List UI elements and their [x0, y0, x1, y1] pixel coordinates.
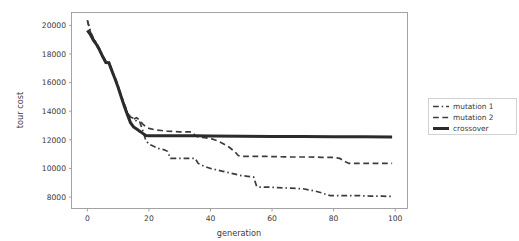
y-tick-label: 12000 — [42, 136, 66, 145]
x-tick-label: 60 — [267, 214, 277, 223]
figure-canvas: 020406080100 800010000120001400016000180… — [0, 0, 519, 241]
y-tick-label: 8000 — [47, 193, 66, 202]
legend: mutation 1mutation 2crossover — [429, 99, 517, 135]
y-tick-label: 10000 — [42, 164, 66, 173]
legend-label: crossover — [453, 124, 490, 133]
x-tick-label: 20 — [144, 214, 154, 223]
x-tick-label: 80 — [329, 214, 339, 223]
y-tick-label: 20000 — [42, 21, 66, 30]
legend-label: mutation 1 — [453, 102, 494, 111]
x-axis-title: generation — [217, 228, 262, 238]
line-chart: 020406080100 800010000120001400016000180… — [0, 0, 519, 241]
y-axis-title: tour cost — [15, 91, 25, 128]
x-tick-label: 0 — [85, 214, 90, 223]
y-tick-label: 18000 — [42, 50, 66, 59]
x-tick-label: 40 — [206, 214, 216, 223]
legend-label: mutation 2 — [453, 113, 494, 122]
x-tick-label: 100 — [388, 214, 403, 223]
y-tick-label: 14000 — [42, 107, 66, 116]
y-tick-label: 16000 — [42, 78, 66, 87]
